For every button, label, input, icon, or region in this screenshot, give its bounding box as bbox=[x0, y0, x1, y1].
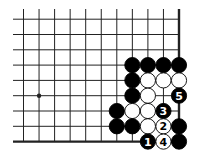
white-stone-icon bbox=[125, 103, 140, 118]
go-board: 53214 bbox=[0, 0, 202, 155]
star-points bbox=[37, 94, 41, 98]
white-stone-icon bbox=[140, 73, 155, 88]
black-stone bbox=[125, 58, 140, 73]
black-stone bbox=[171, 134, 186, 149]
white-stone bbox=[140, 73, 155, 88]
stones: 53214 bbox=[109, 58, 186, 150]
black-stone bbox=[125, 119, 140, 134]
black-stone bbox=[125, 88, 140, 103]
black-stone-icon bbox=[109, 103, 124, 118]
black-stone-move-1: 1 bbox=[140, 134, 155, 149]
black-stone-icon bbox=[125, 119, 140, 134]
white-stone bbox=[156, 73, 171, 88]
black-stone-icon bbox=[109, 119, 124, 134]
black-stone bbox=[171, 58, 186, 73]
black-stone-icon bbox=[171, 134, 186, 149]
white-stone-move-4: 4 bbox=[156, 134, 171, 149]
black-stone-move-5: 5 bbox=[171, 88, 186, 103]
black-stone bbox=[171, 119, 186, 134]
white-stone-icon bbox=[140, 119, 155, 134]
white-stone-icon bbox=[156, 73, 171, 88]
black-stone-icon bbox=[125, 88, 140, 103]
black-stone bbox=[140, 58, 155, 73]
black-stone-icon bbox=[156, 58, 171, 73]
white-stone bbox=[125, 103, 140, 118]
black-stone bbox=[156, 58, 171, 73]
move-number: 2 bbox=[160, 120, 168, 133]
black-stone-icon bbox=[171, 58, 186, 73]
black-stone-icon bbox=[125, 58, 140, 73]
move-number: 5 bbox=[175, 90, 183, 103]
move-number: 3 bbox=[160, 105, 168, 118]
white-stone bbox=[140, 88, 155, 103]
move-number: 4 bbox=[160, 136, 168, 149]
white-stone bbox=[140, 103, 155, 118]
black-stone bbox=[109, 119, 124, 134]
white-stone-icon bbox=[140, 103, 155, 118]
black-stone-move-3: 3 bbox=[156, 103, 171, 118]
white-stone-icon bbox=[171, 73, 186, 88]
black-stone bbox=[109, 103, 124, 118]
black-stone-icon bbox=[171, 119, 186, 134]
white-stone bbox=[140, 119, 155, 134]
white-stone bbox=[171, 73, 186, 88]
star-point bbox=[37, 94, 41, 98]
white-stone-move-2: 2 bbox=[156, 119, 171, 134]
black-stone bbox=[125, 73, 140, 88]
black-stone-icon bbox=[140, 58, 155, 73]
move-number: 1 bbox=[144, 136, 152, 149]
white-stone-icon bbox=[140, 88, 155, 103]
black-stone-icon bbox=[125, 73, 140, 88]
